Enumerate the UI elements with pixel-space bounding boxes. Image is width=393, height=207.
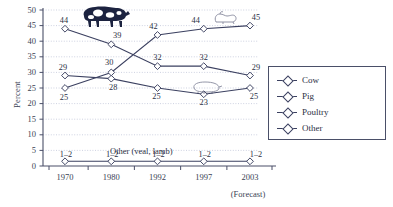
y-tick-label: 30 <box>18 67 36 77</box>
pig-clipart <box>190 79 224 95</box>
legend-label: Cow <box>302 75 319 85</box>
data-point-label: 29 <box>243 63 269 72</box>
x-tick-label: 1970 <box>43 172 87 182</box>
data-point-label: 29 <box>50 63 76 72</box>
y-tick-label: 5 <box>18 145 36 155</box>
legend-label: Other <box>302 123 323 133</box>
data-point-label: 44 <box>51 16 77 25</box>
data-point-label: 25 <box>241 92 267 101</box>
legend-item-poultry[interactable]: Poultry <box>277 104 385 120</box>
other-series-note: Other (veal, lamb) <box>110 146 173 156</box>
y-tick-label: 50 <box>18 5 36 15</box>
data-point-label: 23 <box>191 98 217 107</box>
y-tick-label: 35 <box>18 51 36 61</box>
legend-item-other[interactable]: Other <box>277 120 385 136</box>
x-tick-label: 1997 <box>182 172 226 182</box>
legend-marker-icon <box>277 76 297 84</box>
data-point-label: 32 <box>145 53 171 62</box>
legend-item-pig[interactable]: Pig <box>277 88 385 104</box>
y-tick-label: 20 <box>18 98 36 108</box>
y-tick-label: 45 <box>18 20 36 30</box>
data-point-label: 28 <box>100 83 126 92</box>
y-tick-label: 10 <box>18 129 36 139</box>
chart-legend: Cow Pig Poultry Other <box>268 66 386 140</box>
data-point-label: 44 <box>183 16 209 25</box>
legend-marker-icon <box>277 108 297 116</box>
data-point-label: 42 <box>141 22 167 31</box>
data-point-label: 39 <box>104 31 130 40</box>
data-point-label: 1–2 <box>243 150 269 159</box>
data-point-label: 25 <box>51 93 77 102</box>
chicken-clipart <box>211 9 241 25</box>
legend-item-cow[interactable]: Cow <box>277 72 385 88</box>
data-point-label: 30 <box>96 58 122 67</box>
y-tick-label: 15 <box>18 114 36 124</box>
forecast-note: (Forecast) <box>218 189 278 199</box>
legend-label: Pig <box>302 91 314 101</box>
legend-marker-icon <box>277 124 297 132</box>
legend-label: Poultry <box>302 107 329 117</box>
data-point-label: 45 <box>243 13 269 22</box>
y-tick-label: 40 <box>18 36 36 46</box>
cow-clipart <box>76 2 134 28</box>
data-point-label: 1–2 <box>53 150 79 159</box>
meat-consumption-line-chart: Percent 05101520253035404550 19701980199… <box>0 0 393 207</box>
x-tick-label: 1980 <box>89 172 133 182</box>
data-point-label: 25 <box>144 92 170 101</box>
y-tick-label: 25 <box>18 83 36 93</box>
x-tick-label: 2003 <box>228 172 272 182</box>
legend-marker-icon <box>277 92 297 100</box>
data-point-label: 1–2 <box>192 150 218 159</box>
x-tick-label: 1992 <box>136 172 180 182</box>
y-tick-label: 0 <box>18 161 36 171</box>
data-point-label: 32 <box>191 53 217 62</box>
